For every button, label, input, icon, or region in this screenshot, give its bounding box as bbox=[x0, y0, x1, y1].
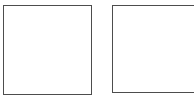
page-canvas bbox=[0, 0, 194, 112]
right-box-interior bbox=[113, 6, 194, 92]
left-box-interior bbox=[4, 6, 91, 94]
right-box[interactable] bbox=[112, 5, 194, 93]
left-box[interactable] bbox=[3, 5, 92, 95]
